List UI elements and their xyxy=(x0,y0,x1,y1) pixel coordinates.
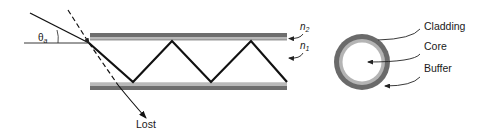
buffer-pointer-arrow xyxy=(385,77,420,86)
acceptance-angle-arc xyxy=(57,30,58,43)
bottom-cladding-layer xyxy=(90,83,287,86)
n2-pointer-arrow xyxy=(289,34,303,39)
buffer-label: Buffer xyxy=(424,62,452,74)
cladding-label: Cladding xyxy=(424,20,466,32)
lost-label: Lost xyxy=(136,118,156,130)
guided-ray-zigzag xyxy=(89,41,287,82)
fiber-top-wall xyxy=(90,33,287,40)
core-label: Core xyxy=(424,40,447,52)
n1-label: n1 xyxy=(300,40,310,52)
top-cladding-layer xyxy=(90,37,287,40)
n2-label: n2 xyxy=(300,21,310,33)
fiber-diagram: θa Lost n2 n1 Cladding Core Buffer xyxy=(0,0,479,132)
n1-pointer-arrow xyxy=(289,53,303,58)
top-buffer-layer xyxy=(90,33,287,37)
cladding-leader xyxy=(378,29,420,40)
theta-label: θa xyxy=(38,32,48,44)
